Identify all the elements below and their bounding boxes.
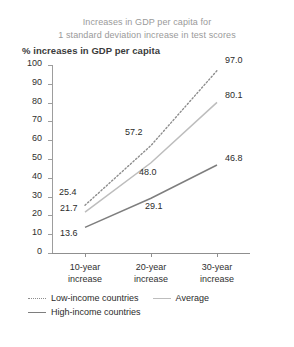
x-tick-label-1: 20-yearincrease (114, 261, 188, 285)
legend-label-low-income: Low-income countries (51, 293, 139, 303)
x-tick-1 (151, 253, 152, 257)
y-tick-label-30: 30 (32, 190, 42, 200)
point-label-1-0: 21.7 (60, 203, 78, 213)
point-label-2-2: 46.8 (225, 153, 243, 163)
y-tick-label-50: 50 (32, 152, 42, 162)
x-tick-2 (217, 253, 218, 257)
chart-legend: Low-income countries Average High-income… (28, 291, 278, 319)
x-tick-label-0: 10-yearincrease (48, 261, 122, 285)
y-tick-label-20: 20 (32, 208, 42, 218)
series-line-0 (85, 71, 217, 206)
series-line-1 (85, 102, 217, 212)
point-label-0-2: 97.0 (225, 55, 243, 65)
legend-item-high-income[interactable]: High-income countries (28, 307, 141, 317)
point-label-0-1: 57.2 (125, 127, 143, 137)
chart-title-line-2: 1 standard deviation increase in test sc… (0, 29, 294, 42)
y-axis-title: % increases in GDP per capita (22, 45, 160, 56)
point-label-1-1: 48.0 (139, 167, 157, 177)
chart-figure: Increases in GDP per capita for 1 standa… (0, 0, 294, 347)
x-tick-label-2: 30-yearincrease (180, 261, 254, 285)
y-tick-label-100: 100 (27, 58, 42, 68)
legend-swatch-low-income-icon (28, 295, 46, 302)
series-lines (52, 65, 250, 253)
point-label-2-0: 13.6 (60, 228, 78, 238)
legend-item-average[interactable]: Average (153, 293, 209, 303)
legend-item-low-income[interactable]: Low-income countries (28, 293, 139, 303)
chart-title: Increases in GDP per capita for 1 standa… (0, 16, 294, 42)
legend-row-1: Low-income countries Average (28, 291, 278, 305)
y-tick-label-0: 0 (37, 246, 42, 256)
y-tick-label-40: 40 (32, 171, 42, 181)
point-label-2-1: 29.1 (145, 201, 163, 211)
point-label-0-0: 25.4 (59, 187, 77, 197)
y-tick-label-90: 90 (32, 77, 42, 87)
y-tick-label-60: 60 (32, 133, 42, 143)
y-tick-label-80: 80 (32, 96, 42, 106)
legend-swatch-average-icon (153, 295, 171, 302)
y-tick-0: 0 (48, 253, 52, 254)
point-label-1-2: 80.1 (225, 90, 243, 100)
chart-title-line-1: Increases in GDP per capita for (0, 16, 294, 29)
y-tick-label-10: 10 (32, 227, 42, 237)
legend-label-average: Average (176, 293, 209, 303)
legend-swatch-high-income-icon (28, 309, 46, 316)
y-tick-label-70: 70 (32, 114, 42, 124)
x-tick-0 (85, 253, 86, 257)
legend-row-2: High-income countries (28, 305, 278, 319)
legend-label-high-income: High-income countries (51, 307, 141, 317)
plot-area: 0102030405060708090100 10-yearincrease20… (52, 65, 250, 253)
